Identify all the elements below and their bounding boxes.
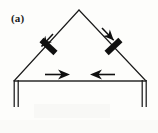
bottom-left-force-arrow	[45, 70, 70, 80]
right-support	[142, 80, 146, 107]
member-group	[14, 10, 146, 81]
bottom-right-force-arrow	[90, 70, 115, 80]
figure-panel: (a)	[0, 0, 158, 133]
bottom-arrow-group	[45, 70, 115, 80]
support-group	[14, 80, 146, 107]
frame-diagram-svg	[0, 0, 158, 133]
left-support	[14, 80, 18, 107]
